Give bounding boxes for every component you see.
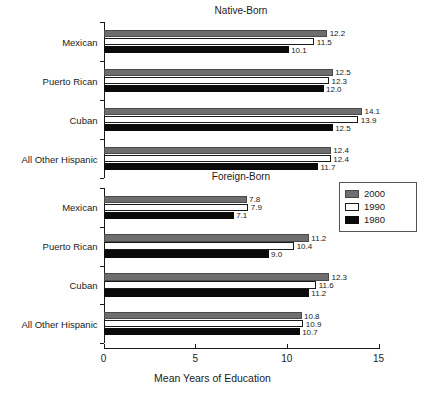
bar-1980-all-other-hispanic bbox=[104, 163, 319, 171]
category-tick bbox=[100, 266, 104, 267]
bar-1980-cuban bbox=[104, 124, 333, 132]
bar-2000-cuban bbox=[104, 273, 330, 281]
category-label-puerto-rican: Puerto Rican bbox=[43, 75, 98, 86]
category-label-cuban: Cuban bbox=[70, 279, 98, 290]
x-axis-tick-label: 10 bbox=[281, 353, 292, 364]
panel-title-native-born: Native-Born bbox=[104, 5, 379, 16]
x-axis-tick bbox=[195, 344, 196, 349]
bar-2000-cuban bbox=[104, 108, 363, 116]
bar-value-label: 10.7 bbox=[302, 327, 318, 336]
legend-item-1980: 1980 bbox=[345, 214, 410, 226]
bar-value-label: 7.1 bbox=[236, 211, 247, 220]
category-tick bbox=[100, 304, 104, 305]
x-axis-tick-label: 15 bbox=[373, 353, 384, 364]
category-tick bbox=[100, 227, 104, 228]
x-axis-tick bbox=[379, 344, 380, 349]
bar-1980-mexican bbox=[104, 212, 234, 220]
category-label-puerto-rican: Puerto Rican bbox=[43, 241, 98, 252]
bar-2000-puerto-rican bbox=[104, 234, 309, 242]
category-tick bbox=[100, 100, 104, 101]
x-axis-tick bbox=[104, 344, 105, 349]
bar-value-label: 11.2 bbox=[311, 288, 326, 297]
bar-2000-all-other-hispanic bbox=[104, 312, 302, 320]
bar-2000-all-other-hispanic bbox=[104, 147, 331, 155]
bar-1990-all-other-hispanic bbox=[104, 320, 304, 328]
bar-1990-cuban bbox=[104, 281, 317, 289]
bar-2000-mexican bbox=[104, 30, 328, 38]
legend-item-1990: 1990 bbox=[345, 201, 410, 213]
x-axis-tick bbox=[287, 344, 288, 349]
x-axis-title: Mean Years of Education bbox=[0, 372, 425, 384]
category-tick bbox=[100, 22, 104, 23]
bar-2000-mexican bbox=[104, 196, 247, 204]
bar-value-label: 12.0 bbox=[326, 84, 342, 93]
legend-label: 1990 bbox=[364, 202, 385, 212]
category-label-all-other-hispanic: All Other Hispanic bbox=[21, 153, 97, 164]
x-axis-tick-label: 5 bbox=[192, 353, 198, 364]
bar-1990-puerto-rican bbox=[104, 77, 330, 85]
bar-value-label: 10.1 bbox=[291, 45, 307, 54]
legend-item-2000: 2000 bbox=[345, 188, 410, 200]
category-tick bbox=[100, 188, 104, 189]
x-axis-tick-label: 0 bbox=[101, 353, 107, 364]
category-label-cuban: Cuban bbox=[70, 114, 98, 125]
bar-1990-mexican bbox=[104, 204, 249, 212]
bar-1990-mexican bbox=[104, 38, 315, 46]
bar-1990-all-other-hispanic bbox=[104, 155, 331, 163]
bar-value-label: 13.9 bbox=[361, 115, 377, 124]
bar-1980-cuban bbox=[104, 289, 309, 297]
x-axis-line bbox=[104, 348, 379, 349]
category-tick bbox=[100, 139, 104, 140]
category-tick bbox=[100, 61, 104, 62]
bar-1980-puerto-rican bbox=[104, 250, 269, 258]
bar-value-label: 12.3 bbox=[332, 272, 348, 281]
bar-value-label: 12.4 bbox=[333, 154, 349, 163]
bar-value-label: 11.7 bbox=[321, 162, 336, 171]
legend-swatch-1990-icon bbox=[345, 203, 359, 211]
bar-1980-all-other-hispanic bbox=[104, 328, 300, 336]
bar-value-label: 12.2 bbox=[330, 29, 346, 38]
bar-value-label: 9.0 bbox=[271, 250, 282, 259]
legend-swatch-1980-icon bbox=[345, 216, 359, 224]
category-label-all-other-hispanic: All Other Hispanic bbox=[21, 318, 97, 329]
bar-1990-puerto-rican bbox=[104, 242, 295, 250]
legend-swatch-2000-icon bbox=[345, 190, 359, 198]
category-label-mexican: Mexican bbox=[62, 202, 97, 213]
bar-1980-puerto-rican bbox=[104, 85, 324, 93]
education-bar-chart: Native-BornMexican12.211.510.1Puerto Ric… bbox=[0, 0, 425, 395]
legend-label: 1980 bbox=[364, 215, 385, 225]
panel-title-foreign-born: Foreign-Born bbox=[104, 171, 379, 182]
bar-value-label: 11.5 bbox=[317, 37, 332, 46]
category-label-mexican: Mexican bbox=[62, 36, 97, 47]
chart-legend: 200019901980 bbox=[339, 182, 417, 232]
bar-value-label: 12.5 bbox=[335, 123, 351, 132]
bar-2000-puerto-rican bbox=[104, 69, 333, 77]
bar-value-label: 7.9 bbox=[251, 203, 262, 212]
bar-1990-cuban bbox=[104, 116, 359, 124]
bar-value-label: 10.4 bbox=[297, 242, 313, 251]
bar-value-label: 11.2 bbox=[311, 234, 326, 243]
legend-label: 2000 bbox=[364, 189, 385, 199]
bar-1980-mexican bbox=[104, 46, 289, 54]
